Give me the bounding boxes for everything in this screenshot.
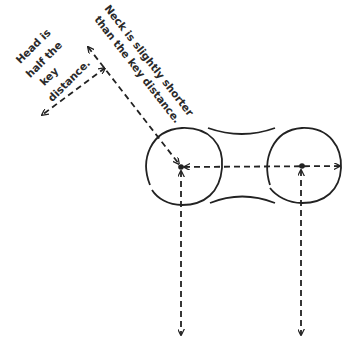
proportion-diagram: Head is half the key distance. Neck is s… (0, 0, 343, 337)
neck-top-curve (208, 128, 275, 134)
key-distance-arrow (184, 166, 340, 167)
neck-bottom-curve (210, 197, 275, 204)
right-center-dot (299, 163, 305, 169)
left-center-dot (178, 164, 184, 170)
